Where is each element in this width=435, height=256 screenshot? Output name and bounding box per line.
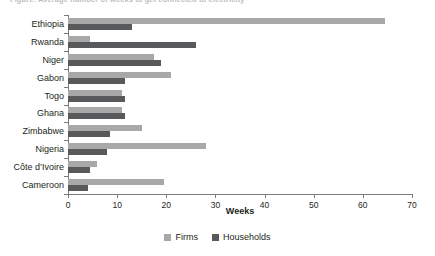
bar-group <box>68 125 412 137</box>
x-axis-title: Weeks <box>68 206 412 216</box>
category-label: Nigeria <box>35 144 64 154</box>
category-label: Niger <box>42 55 64 65</box>
chart-title: Figure: Average number of weeks to get c… <box>10 0 245 4</box>
y-axis-tick <box>64 158 68 159</box>
bar-households <box>68 60 161 66</box>
bar-households <box>68 185 88 191</box>
legend-swatch-icon <box>164 234 171 241</box>
y-axis-tick <box>64 15 68 16</box>
category-label: Togo <box>44 91 64 101</box>
category-label: Ghana <box>37 108 64 118</box>
bar-households <box>68 167 90 173</box>
category-label: Gabon <box>37 73 64 83</box>
bar-group <box>68 179 412 191</box>
category-label: Cameroon <box>22 180 64 190</box>
category-label: Zimbabwe <box>22 126 64 136</box>
x-axis-tick <box>117 194 118 198</box>
bar-households <box>68 113 125 119</box>
chart-legend: FirmsHouseholds <box>0 232 435 242</box>
bar-group <box>68 161 412 173</box>
legend-swatch-icon <box>212 234 219 241</box>
bar-group <box>68 143 412 155</box>
category-axis-labels: EthiopiaRwandaNigerGabonTogoGhanaZimbabw… <box>0 15 64 194</box>
y-axis-tick <box>64 69 68 70</box>
bar-households <box>68 42 196 48</box>
x-axis-tick <box>265 194 266 198</box>
x-axis-tick <box>363 194 364 198</box>
y-axis-tick <box>64 194 68 195</box>
y-axis-tick <box>64 176 68 177</box>
y-axis-tick <box>64 105 68 106</box>
category-label: Ethiopia <box>31 19 64 29</box>
bar-households <box>68 131 110 137</box>
bar-group <box>68 72 412 84</box>
y-axis-tick <box>64 140 68 141</box>
x-axis-tick <box>166 194 167 198</box>
category-label: Côte d’Ivoire <box>13 162 64 172</box>
x-axis-tick <box>215 194 216 198</box>
chart-container: Figure: Average number of weeks to get c… <box>0 0 435 256</box>
legend-item[interactable]: Households <box>212 232 271 242</box>
x-axis-tick <box>314 194 315 198</box>
category-label: Rwanda <box>31 37 64 47</box>
bar-households <box>68 24 132 30</box>
legend-label: Firms <box>175 232 198 242</box>
bar-group <box>68 36 412 48</box>
x-axis-tick <box>68 194 69 198</box>
bar-households <box>68 149 107 155</box>
bar-households <box>68 78 125 84</box>
legend-label: Households <box>223 232 271 242</box>
bar-group <box>68 107 412 119</box>
x-axis-tick <box>412 194 413 198</box>
y-axis-tick <box>64 122 68 123</box>
y-axis-tick <box>64 51 68 52</box>
bar-group <box>68 54 412 66</box>
legend-item[interactable]: Firms <box>164 232 198 242</box>
bar-group <box>68 18 412 30</box>
x-axis-line <box>68 194 413 195</box>
plot-area: 010203040506070 <box>68 15 412 194</box>
y-axis-tick <box>64 87 68 88</box>
bar-group <box>68 90 412 102</box>
bar-households <box>68 96 125 102</box>
y-axis-tick <box>64 33 68 34</box>
